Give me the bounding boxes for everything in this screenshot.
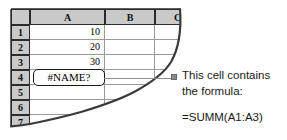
cell-b3[interactable] <box>105 55 155 70</box>
cell-b1[interactable] <box>105 25 155 40</box>
cell-a7[interactable] <box>30 115 105 130</box>
select-all-corner[interactable] <box>11 9 30 25</box>
row-header-6[interactable]: 6 <box>11 100 30 115</box>
cell-c2[interactable] <box>155 40 200 55</box>
annotation-line-2: the formula: <box>182 84 286 100</box>
row-header-4[interactable]: 4 <box>11 70 30 85</box>
cell-b6[interactable] <box>105 100 155 115</box>
cell-b7[interactable] <box>105 115 155 130</box>
callout-leader-line <box>104 78 173 79</box>
cell-b5[interactable] <box>105 85 155 100</box>
row-header-7[interactable]: 7 <box>11 115 30 130</box>
square-bullet-icon <box>171 74 177 80</box>
column-header-b[interactable]: B <box>105 9 155 25</box>
cell-a2[interactable]: 20 <box>30 40 105 55</box>
annotation-text: This cell contains the formula: <box>182 68 286 99</box>
annotation-line-1: This cell contains <box>182 68 286 84</box>
cell-b2[interactable] <box>105 40 155 55</box>
cell-a1[interactable]: 10 <box>30 25 105 40</box>
annotation-formula: =SUMM(A1:A3) <box>182 110 286 126</box>
row-header-5[interactable]: 5 <box>11 85 30 100</box>
cell-a3[interactable]: 30 <box>30 55 105 70</box>
row-header-3[interactable]: 3 <box>11 55 30 70</box>
column-header-c[interactable]: C <box>155 9 200 25</box>
row-header-1[interactable]: 1 <box>11 25 30 40</box>
error-cell-callout[interactable]: #NAME? <box>33 69 105 86</box>
row-header-2[interactable]: 2 <box>11 40 30 55</box>
cell-c1[interactable] <box>155 25 200 40</box>
column-header-a[interactable]: A <box>30 9 105 25</box>
cell-a6[interactable] <box>30 100 105 115</box>
cell-a5[interactable] <box>30 85 105 100</box>
